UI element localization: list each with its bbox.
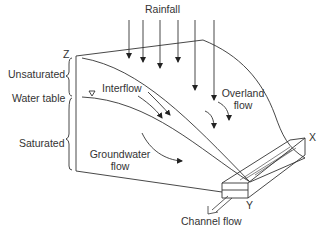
unsaturated-label: Unsaturated <box>8 68 65 80</box>
x-axis-label: X <box>309 131 316 143</box>
overland-arrow-2 <box>205 111 214 128</box>
water-table-symbol <box>89 91 95 96</box>
channel-flow-arrowhead <box>208 206 218 214</box>
ground-surface-line <box>76 40 203 56</box>
unsaturated-brace <box>66 58 72 96</box>
rainfall-label: Rainfall <box>145 3 180 15</box>
channel-front-face <box>222 183 248 198</box>
channel-side-edge <box>248 138 305 198</box>
overland-flow-label: Overland flow <box>218 87 268 111</box>
groundwater-flow-label: Groundwater flow <box>86 148 154 172</box>
groundwater-flow-line2: flow <box>86 160 154 172</box>
overland-flow-line2: flow <box>218 99 268 111</box>
channel-flow-label: Channel flow <box>181 215 242 227</box>
groundwater-flow-line1: Groundwater <box>86 148 154 160</box>
diagram-graphics <box>0 0 324 231</box>
y-axis-label: Y <box>246 199 253 211</box>
hillslope-diagram: Rainfall Z Unsaturated Water table Satur… <box>0 0 324 231</box>
saturated-label: Saturated <box>19 137 65 149</box>
interflow-arrow-1 <box>138 96 162 118</box>
z-axis-label: Z <box>63 48 69 60</box>
water-table-label: Water table <box>12 92 65 104</box>
base-line <box>76 171 222 192</box>
interflow-label: Interflow <box>102 82 142 94</box>
overland-flow-line1: Overland <box>218 87 268 99</box>
saturated-brace <box>66 98 72 170</box>
